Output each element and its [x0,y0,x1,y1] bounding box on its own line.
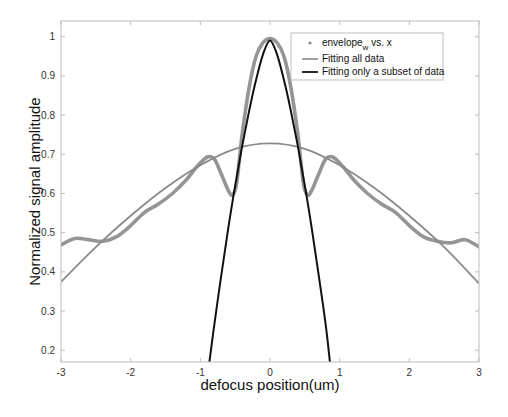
legend-envelope-tail: vs. x [368,37,391,48]
y-tick-label: 0.6 [41,188,55,199]
x-tick-label: 3 [476,367,482,378]
legend-envelope-main: envelope [322,37,363,48]
y-tick-label: 1 [49,31,55,42]
x-axis-label: defocus position(um) [200,376,339,393]
chart: -3-2-10123 0.20.30.40.50.60.70.80.91 def… [0,0,508,417]
x-tick-label: -3 [57,367,66,378]
y-tick-label: 0.2 [41,345,55,356]
legend-label-fit-all: Fitting all data [322,53,385,64]
legend-marker-envelope [308,41,311,44]
y-axis-label: Normalized signal amplitude [26,97,43,285]
legend-label-fit-subset: Fitting only a subset of data [322,66,445,77]
y-tick-label: 0.9 [41,70,55,81]
y-tick-label: 0.8 [41,110,55,121]
y-tick-label: 0.5 [41,227,55,238]
x-tick-label: 2 [407,367,413,378]
y-tick-label: 0.3 [41,306,55,317]
y-tick-label: 0.4 [41,266,55,277]
legend: envelopew vs. x Fitting all data Fitting… [291,33,445,80]
x-tick-label: -2 [126,367,135,378]
y-tick-label: 0.7 [41,149,55,160]
